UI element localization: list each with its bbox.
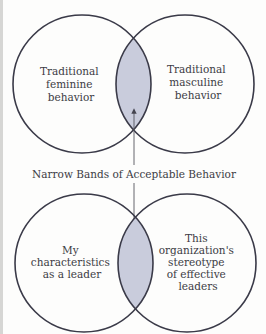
venn-diagram-canvas: Traditional feminine behavior Traditiona… [0, 0, 266, 334]
label-traditional-feminine: Traditional feminine behavior [40, 65, 102, 103]
label-line: stereotype [168, 256, 224, 268]
label-organization-stereotype: This organization's stereotype of effect… [159, 232, 238, 292]
label-my-characteristics: My characteristics as a leader [31, 244, 113, 280]
label-line: behavior [175, 89, 223, 101]
label-line: characteristics [31, 256, 110, 268]
label-line: feminine [46, 78, 93, 90]
label-line: organization's [159, 244, 234, 256]
top-venn: Traditional feminine behavior Traditiona… [13, 15, 254, 153]
label-line: behavior [48, 91, 96, 103]
label-line: masculine [169, 76, 223, 88]
label-line: Traditional [167, 63, 226, 75]
label-line: of effective [167, 268, 226, 280]
label-traditional-masculine: Traditional masculine behavior [167, 63, 229, 101]
narrow-bands-label: Narrow Bands of Acceptable Behavior [32, 168, 237, 180]
label-line: This [185, 232, 208, 244]
label-line: as a leader [43, 268, 102, 280]
label-line: My [62, 244, 79, 256]
bottom-venn: My characteristics as a leader This orga… [15, 194, 256, 332]
label-line: leaders [178, 280, 217, 292]
label-line: Traditional [40, 65, 99, 77]
